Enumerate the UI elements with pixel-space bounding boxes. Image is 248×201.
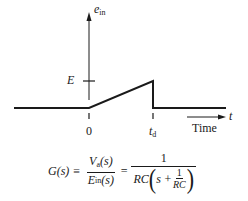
result-denominator: RC ( s + 1 RC )	[133, 167, 194, 190]
time-arrow-label: t	[229, 109, 232, 124]
time-axis-label: Time	[192, 121, 217, 136]
tick-label-td: td	[149, 124, 156, 139]
transfer-function-equation: G(s) ≡ Va(s) Ein(s) = 1 RC ( s + 1 RC )	[48, 152, 197, 190]
waveform-line	[14, 81, 226, 108]
tick-label-zero: 0	[86, 124, 92, 139]
equation-lhs: G(s)	[48, 164, 69, 179]
ratio-numerator: Va(s)	[87, 155, 115, 173]
equation-equals: =	[121, 164, 128, 179]
ratio-fraction: Va(s) Ein(s)	[87, 155, 115, 187]
level-e-label: E	[67, 73, 74, 88]
time-arrow-icon	[218, 115, 226, 120]
y-axis-arrow-icon	[87, 12, 92, 21]
y-axis-label: ein	[94, 2, 106, 17]
result-fraction: 1 RC ( s + 1 RC )	[133, 152, 194, 190]
ratio-denominator: Ein(s)	[88, 173, 114, 187]
equation-equiv: ≡	[73, 164, 80, 179]
inner-fraction: 1 RC	[173, 168, 186, 190]
